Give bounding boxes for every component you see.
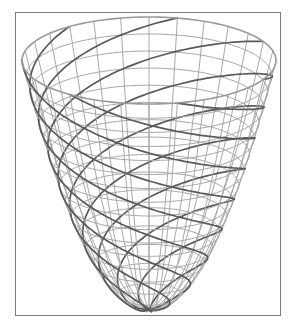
paraboloid-surface <box>0 0 297 333</box>
